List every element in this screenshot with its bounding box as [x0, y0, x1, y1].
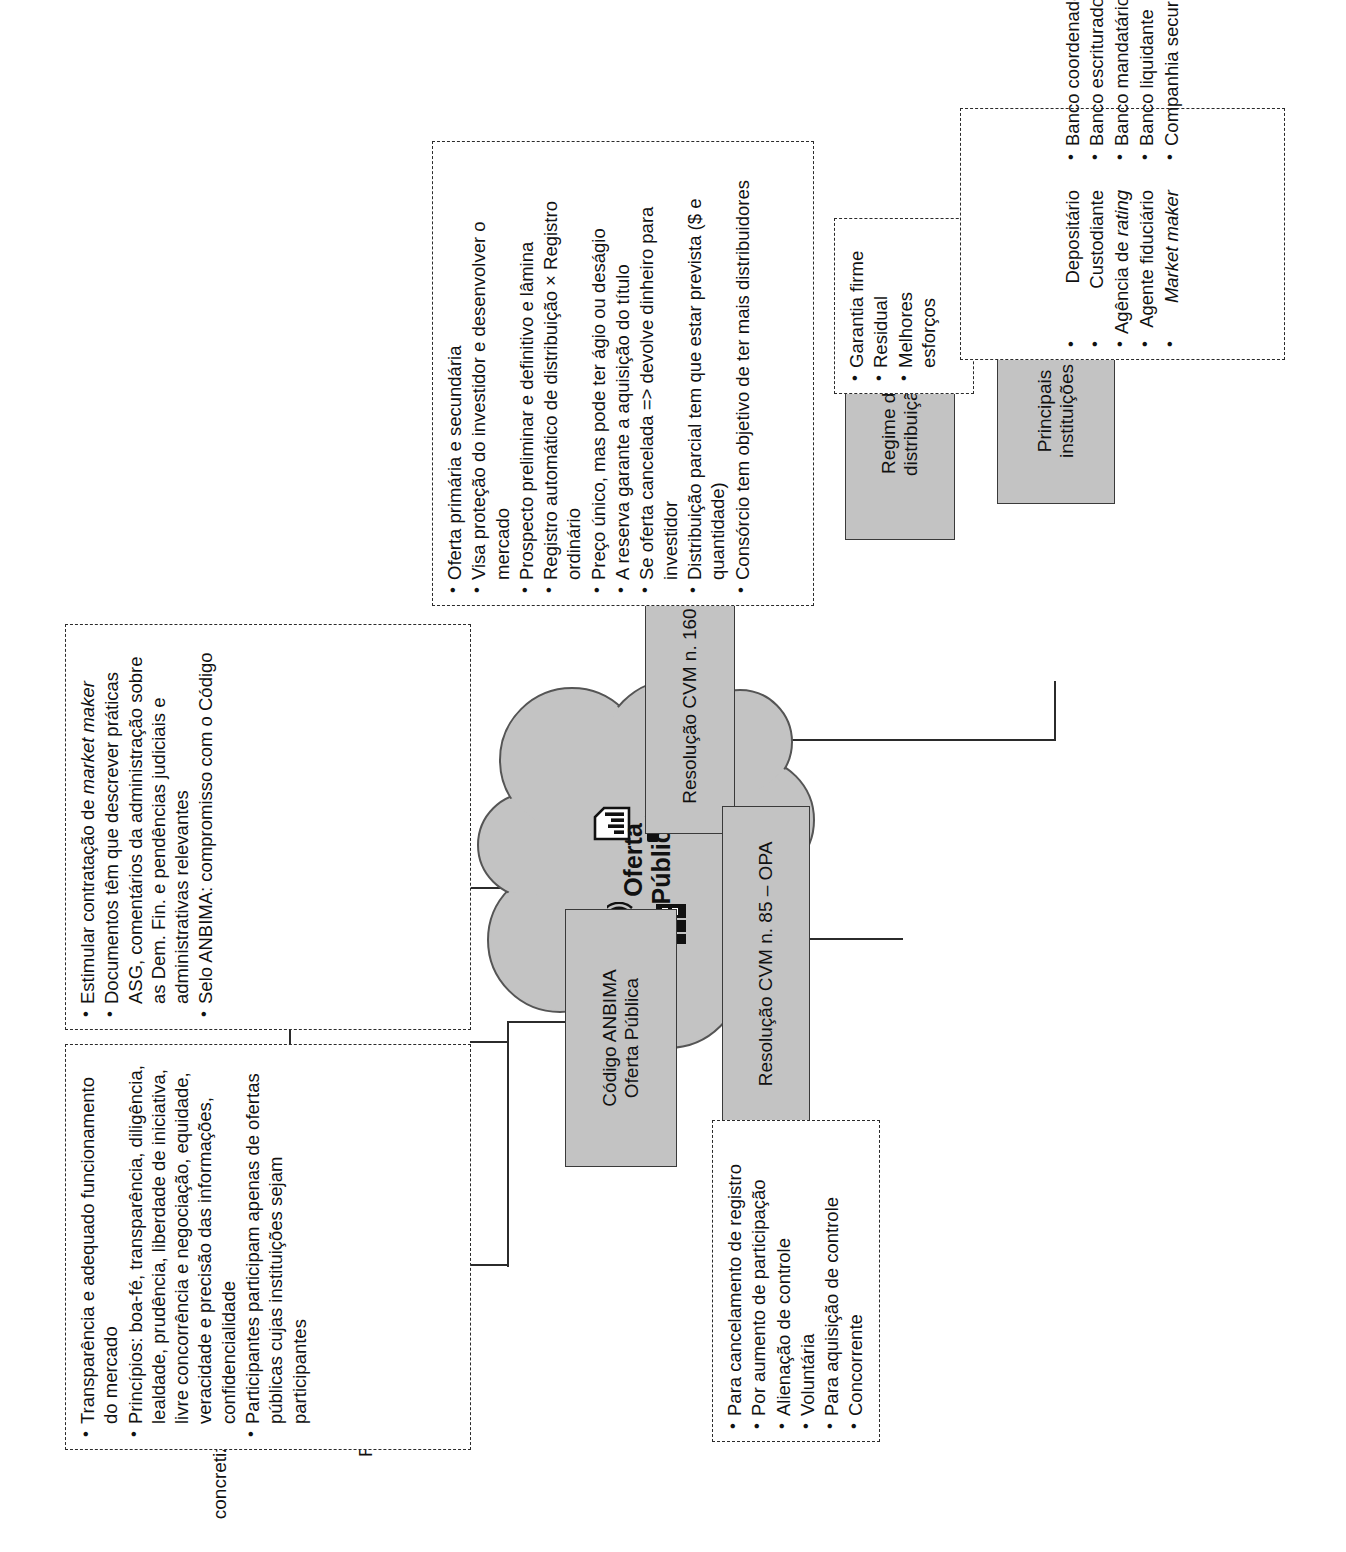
list-item: Oferta primária e secundária	[443, 154, 466, 593]
list-item: Registro automático de distribuição × Re…	[539, 154, 586, 593]
list-item: Companhia securitizadora	[1160, 0, 1184, 160]
list-item: Banco liquidante	[1135, 0, 1159, 160]
node-codigo-anbima-line1: Código ANBIMA	[599, 969, 621, 1106]
list-item: Melhores esforços	[894, 231, 941, 381]
node-codigo-anbima-line2: Oferta Pública	[621, 978, 643, 1098]
note-cvm-85: Para cancelamento de registro Por aument…	[712, 1120, 880, 1442]
list-item: Banco mandatário	[1110, 0, 1134, 160]
node-regime-line1: Regime de	[878, 382, 900, 474]
note-anbima-regras: Estimular contratação de market maker Do…	[65, 624, 471, 1030]
list-item: Garantia firme	[845, 231, 868, 381]
list-item: Princípios: boa-fé, transparência, dilig…	[124, 1057, 240, 1437]
note-cvm-85-list: Para cancelamento de registro Por aument…	[723, 1133, 868, 1429]
list-item: Visa proteção do investidor e desenvolve…	[467, 154, 514, 593]
list-item: Preço único, mas pode ter ágio ou desági…	[587, 154, 610, 593]
node-codigo-anbima[interactable]: Código ANBIMA Oferta Pública	[565, 909, 677, 1167]
diagram-rotated-layer: Oferta Pública Riscos Rateio Não concret…	[0, 0, 1346, 1552]
list-item: Documentos têm que descrever práticas AS…	[100, 637, 193, 1017]
list-item: Selo ANBIMA: compromisso com o Código	[194, 637, 217, 1017]
list-item: Por aumento de participação	[747, 1133, 770, 1429]
node-cvm-85-opa[interactable]: Resolução CVM n. 85 – OPA	[722, 806, 810, 1122]
node-cvm-85-opa-label: Resolução CVM n. 85 – OPA	[755, 842, 777, 1087]
list-item: Estimular contratação de market maker	[76, 637, 99, 1017]
list-item: A reserva garante a aquisição do título	[611, 154, 634, 593]
instituicoes-left-column: Depositário Custodiante Agência de ratin…	[1061, 190, 1184, 347]
note-anbima-principios-list: Transparência e adequado funcionamento d…	[76, 1057, 311, 1437]
node-cvm-160[interactable]: Resolução CVM n. 160	[645, 578, 735, 834]
list-item: Prospecto preliminar e definitivo e lâmi…	[515, 154, 538, 593]
node-instituicoes-line1: Principais	[1034, 370, 1056, 452]
list-item: Voluntária	[796, 1133, 819, 1429]
node-regime-line2: distribuição	[900, 380, 922, 476]
list-item: Concorrente	[844, 1133, 867, 1429]
diagram-canvas: Oferta Pública Riscos Rateio Não concret…	[0, 0, 1346, 1552]
list-item: Alienação de controle	[772, 1133, 795, 1429]
list-item: Depositário	[1061, 190, 1085, 347]
list-item: Para aquisição de controle	[820, 1133, 843, 1429]
list-item: Banco escriturador	[1085, 0, 1109, 160]
list-item: Agente fiduciário	[1135, 190, 1159, 347]
node-cvm-160-label: Resolução CVM n. 160	[679, 608, 701, 803]
list-item: Participantes participam apenas de ofert…	[241, 1057, 311, 1437]
instituicoes-columns: Depositário Custodiante Agência de ratin…	[1061, 0, 1184, 347]
connector-cloud-inst-h	[1054, 681, 1056, 741]
list-item: Para cancelamento de registro	[723, 1133, 746, 1429]
list-item: Transparência e adequado funcionamento d…	[76, 1057, 123, 1437]
list-item: Distribuição parcial tem que estar previ…	[683, 154, 730, 593]
list-item: Se oferta cancelada => devolve dinheiro …	[635, 154, 682, 593]
note-regime-list: Garantia firme Residual Melhores esforço…	[845, 231, 940, 381]
connector-cloud-inst-v	[790, 739, 1055, 741]
list-item: Custodiante	[1085, 190, 1109, 347]
note-regime-distribuicao: Garantia firme Residual Melhores esforço…	[834, 218, 974, 394]
note-cvm-160: Oferta primária e secundária Visa proteç…	[432, 141, 814, 606]
list-item: Market maker	[1160, 190, 1184, 347]
note-anbima-principios: Transparência e adequado funcionamento d…	[65, 1044, 471, 1450]
node-instituicoes-line2: instituições	[1056, 364, 1078, 458]
list-item: Banco coordenador	[1061, 0, 1085, 160]
note-principais-instituicoes: Depositário Custodiante Agência de ratin…	[960, 108, 1285, 360]
instituicoes-right-column: Banco coordenador Banco escriturador Ban…	[1061, 0, 1184, 160]
list-item: Residual	[869, 231, 892, 381]
list-item: Agência de rating	[1110, 190, 1134, 347]
connector-anbima-note1	[470, 1264, 508, 1266]
list-item: Consórcio tem objetivo de ter mais distr…	[731, 154, 754, 593]
note-anbima-regras-list: Estimular contratação de market maker Do…	[76, 637, 218, 1017]
note-cvm-160-list: Oferta primária e secundária Visa proteç…	[443, 154, 754, 593]
